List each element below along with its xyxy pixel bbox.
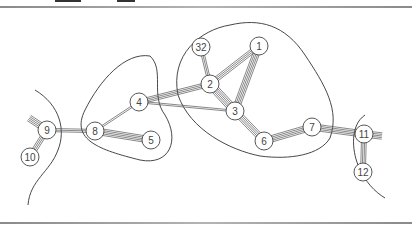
node-10: 10 (21, 148, 39, 166)
node-3: 3 (226, 102, 244, 120)
node-label: 7 (309, 122, 315, 133)
node-5: 5 (142, 131, 160, 149)
network-diagram: 13223456789101112 (0, 0, 412, 230)
node-label: 11 (359, 129, 370, 140)
nodes: 13223456789101112 (21, 37, 373, 181)
node-label: 12 (357, 167, 369, 178)
bottom-rule (0, 222, 412, 224)
node-1: 1 (250, 37, 268, 55)
node-9: 9 (38, 121, 56, 139)
node-label: 4 (136, 97, 142, 108)
node-label: 9 (44, 125, 50, 136)
edges (27, 44, 382, 172)
node-4: 4 (130, 93, 148, 111)
node-label: 3 (232, 106, 238, 117)
edge-4-2 (138, 82, 210, 105)
node-8: 8 (86, 122, 104, 140)
node-7: 7 (303, 118, 321, 136)
node-label: 6 (261, 136, 267, 147)
node-label: 8 (92, 126, 98, 137)
node-label: 2 (207, 79, 213, 90)
node-label: 10 (24, 152, 36, 163)
node-label: 32 (195, 42, 207, 53)
edge-4-3 (139, 101, 235, 112)
node-label: 1 (256, 41, 262, 52)
node-12: 12 (354, 163, 372, 181)
node-6: 6 (255, 132, 273, 150)
node-label: 5 (148, 135, 154, 146)
node-32: 32 (192, 38, 210, 56)
node-11: 11 (355, 125, 373, 143)
node-2: 2 (201, 75, 219, 93)
